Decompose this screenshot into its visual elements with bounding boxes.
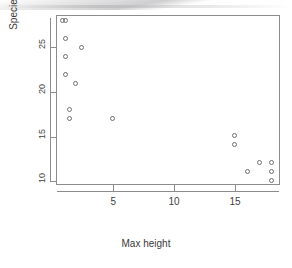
y-axis-tick-label: 25 bbox=[36, 39, 47, 55]
data-point bbox=[67, 107, 72, 112]
data-point bbox=[110, 116, 115, 121]
y-axis-tick-mark bbox=[50, 92, 56, 93]
x-axis-tick-label: 5 bbox=[100, 196, 126, 207]
data-point bbox=[79, 45, 84, 50]
x-axis-tick-mark bbox=[235, 185, 236, 191]
x-axis-line bbox=[57, 191, 279, 192]
data-point bbox=[63, 72, 68, 77]
x-axis-tick-label: 15 bbox=[222, 196, 248, 207]
x-axis-tick-mark bbox=[174, 185, 175, 191]
y-axis-tick-label-text: 10 bbox=[38, 173, 47, 183]
y-axis-tick-mark bbox=[50, 181, 56, 182]
data-point bbox=[63, 36, 68, 41]
data-point bbox=[269, 178, 274, 183]
x-axis-tick-label: 10 bbox=[161, 196, 187, 207]
data-point bbox=[67, 116, 72, 121]
y-axis-title: Species richness bbox=[8, 0, 20, 52]
y-axis-tick-label-text: 20 bbox=[38, 84, 47, 94]
data-point bbox=[245, 169, 250, 174]
y-axis-tick-mark bbox=[50, 47, 56, 48]
x-axis-title: Max height bbox=[0, 238, 292, 250]
y-axis-tick-label-text: 25 bbox=[38, 39, 47, 49]
data-point-layer bbox=[56, 15, 280, 185]
data-point bbox=[232, 142, 237, 147]
data-point bbox=[269, 160, 274, 165]
data-point bbox=[73, 81, 78, 86]
y-axis-tick-label: 20 bbox=[36, 84, 47, 100]
x-axis-tick-mark bbox=[113, 185, 114, 191]
data-point bbox=[257, 160, 262, 165]
data-point bbox=[63, 18, 68, 23]
y-axis-tick-label-text: 15 bbox=[38, 129, 47, 139]
y-axis-tick-label: 10 bbox=[36, 173, 47, 189]
data-point bbox=[232, 133, 237, 138]
y-axis-tick-label: 15 bbox=[36, 129, 47, 145]
data-point bbox=[269, 169, 274, 174]
y-axis-tick-mark bbox=[50, 137, 56, 138]
y-axis-line bbox=[50, 18, 51, 182]
y-axis-title-text: Species richness bbox=[8, 0, 20, 52]
scatter-plot: 10152025 51015 Species richness Max heig… bbox=[0, 0, 292, 268]
data-point bbox=[63, 54, 68, 59]
